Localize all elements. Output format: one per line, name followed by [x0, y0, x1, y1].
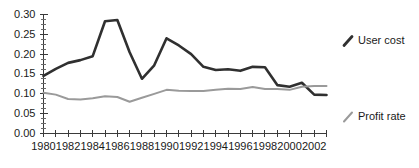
- y-tick-label: 0.20: [14, 48, 35, 60]
- y-tick-label: 0.30: [14, 8, 35, 20]
- x-tick-label: 1988: [130, 140, 154, 152]
- x-tick-label: 2002: [302, 140, 326, 152]
- x-tick-label: 1996: [228, 140, 252, 152]
- x-tick-label: 1998: [253, 140, 277, 152]
- legend-label-profit-rate: Profit rate: [358, 110, 406, 122]
- line-chart: 0.000.050.100.150.200.250.30 19801982198…: [0, 0, 419, 168]
- y-tick-label: 0.15: [14, 67, 35, 79]
- series-line-user-cost: [44, 20, 327, 95]
- data-series-group: [44, 20, 327, 102]
- chart-legend: User costProfit rate: [344, 34, 406, 122]
- x-tick-label: 1990: [154, 140, 178, 152]
- legend-label-user-cost: User cost: [358, 34, 404, 46]
- legend-marker-user-cost: [344, 37, 352, 46]
- y-tick-label: 0.25: [14, 28, 35, 40]
- y-tick-label: 0.00: [14, 127, 35, 139]
- x-tick-label: 1992: [179, 140, 203, 152]
- legend-marker-profit-rate: [344, 113, 352, 122]
- series-line-profit-rate: [44, 86, 327, 102]
- x-axis: 1980198219841986198819901992199419961998…: [31, 130, 326, 152]
- x-tick-label: 1980: [31, 140, 55, 152]
- x-tick-label: 1994: [204, 140, 228, 152]
- x-tick-label: 1986: [105, 140, 129, 152]
- x-tick-label: 1984: [80, 140, 104, 152]
- x-tick-label: 2000: [277, 140, 301, 152]
- x-tick-label: 1982: [56, 140, 80, 152]
- chart-screenshot: 0.000.050.100.150.200.250.30 19801982198…: [0, 0, 419, 168]
- y-tick-label: 0.10: [14, 87, 35, 99]
- y-axis: 0.000.050.100.150.200.250.30: [14, 8, 47, 139]
- y-tick-label: 0.05: [14, 107, 35, 119]
